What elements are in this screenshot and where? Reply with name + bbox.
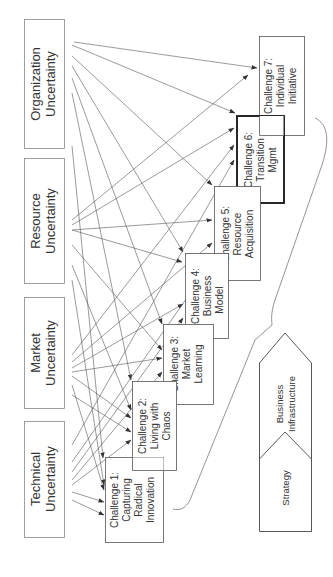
svg-text:Challenge 7:: Challenge 7:: [263, 58, 274, 114]
svg-text:Individual: Individual: [275, 65, 286, 107]
challenge-box-1: Challenge 1: Capturing Radical Innovatio…: [106, 458, 164, 543]
svg-text:Initiative: Initiative: [287, 67, 298, 104]
svg-text:Learning: Learning: [193, 345, 204, 384]
svg-text:Capturing: Capturing: [121, 478, 132, 521]
strategy-infrastructure-chevron: Strategy Business Infrastructure: [260, 333, 312, 532]
source-label: Uncertainty: [43, 320, 58, 386]
svg-text:Innovation: Innovation: [145, 477, 156, 523]
svg-text:Acquisition: Acquisition: [244, 210, 255, 258]
source-box-market: Market Uncertainty: [25, 298, 65, 409]
source-label: Uncertainty: [43, 188, 58, 254]
source-label: Technical: [28, 452, 43, 506]
svg-text:Living with: Living with: [149, 403, 160, 450]
svg-text:Challenge 1:: Challenge 1:: [109, 472, 120, 528]
svg-text:Business: Business: [202, 276, 213, 317]
svg-text:Radical: Radical: [133, 483, 144, 516]
strategy-label: Strategy: [280, 470, 291, 506]
svg-text:Challenge 2:: Challenge 2:: [137, 398, 148, 454]
svg-text:Challenge 4:: Challenge 4:: [190, 268, 201, 324]
svg-text:Challenge 6:: Challenge 6:: [243, 132, 254, 188]
source-label: Uncertainty: [43, 446, 58, 512]
source-label: Resource: [28, 193, 43, 249]
svg-text:Resource: Resource: [232, 212, 243, 255]
source-label: Organization: [28, 47, 43, 121]
svg-text:Market: Market: [181, 348, 192, 379]
svg-text:Chaos: Chaos: [161, 412, 172, 441]
svg-text:Model: Model: [214, 286, 225, 313]
svg-text:Transition: Transition: [255, 138, 266, 182]
source-label: Market: [28, 333, 43, 373]
source-box-organization: Organization Uncertainty: [25, 20, 65, 149]
source-box-technical: Technical Uncertainty: [25, 422, 65, 538]
source-box-resource: Resource Uncertainty: [25, 159, 65, 284]
infrastructure-label: Business: [274, 384, 285, 423]
infrastructure-label: Infrastructure: [286, 376, 297, 432]
source-label: Uncertainty: [43, 51, 58, 117]
uncertainty-challenge-diagram: Organization Uncertainty Resource Uncert…: [0, 0, 333, 577]
svg-text:Mgmt: Mgmt: [267, 147, 278, 172]
